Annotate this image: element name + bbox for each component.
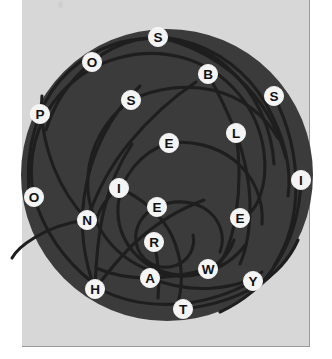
- letter-node[interactable]: O: [24, 187, 43, 206]
- letter-node-disc[interactable]: [24, 187, 43, 206]
- letter-node-disc[interactable]: [121, 90, 140, 109]
- letter-node[interactable]: P: [30, 104, 49, 123]
- letter-node-disc[interactable]: [198, 64, 217, 83]
- letter-node[interactable]: E: [159, 133, 178, 152]
- letter-node-disc[interactable]: [159, 133, 178, 152]
- letter-node-disc[interactable]: [144, 232, 163, 251]
- letter-node[interactable]: O: [82, 52, 101, 71]
- letter-node-disc[interactable]: [230, 208, 249, 227]
- letter-node[interactable]: L: [226, 123, 245, 142]
- letter-node-disc[interactable]: [109, 178, 128, 197]
- letter-node[interactable]: T: [173, 299, 192, 318]
- letter-node-disc[interactable]: [147, 197, 166, 216]
- letter-node-disc[interactable]: [264, 86, 283, 105]
- letter-node-disc[interactable]: [85, 279, 104, 298]
- letter-node[interactable]: Y: [243, 271, 262, 290]
- letter-node-disc[interactable]: [148, 27, 167, 46]
- letter-node-disc[interactable]: [243, 271, 262, 290]
- letter-node[interactable]: N: [77, 210, 96, 229]
- screenshot-root: SOBSSPLEIOIENERWAYHT: [0, 0, 332, 359]
- letter-node[interactable]: E: [147, 197, 166, 216]
- letter-node-disc[interactable]: [198, 259, 217, 278]
- letter-node[interactable]: I: [109, 178, 128, 197]
- letter-node-disc[interactable]: [291, 170, 310, 189]
- letter-node[interactable]: A: [140, 268, 159, 287]
- letter-node[interactable]: S: [264, 86, 283, 105]
- letter-node[interactable]: I: [291, 170, 310, 189]
- letter-node[interactable]: B: [198, 64, 217, 83]
- letter-node-disc[interactable]: [77, 210, 96, 229]
- spiral-letter-puzzle[interactable]: SOBSSPLEIOIENERWAYHT: [0, 0, 332, 359]
- letter-node[interactable]: E: [230, 208, 249, 227]
- letter-node[interactable]: R: [144, 232, 163, 251]
- letter-node-disc[interactable]: [140, 268, 159, 287]
- letter-node[interactable]: S: [121, 90, 140, 109]
- letter-node-disc[interactable]: [226, 123, 245, 142]
- letter-node-disc[interactable]: [30, 104, 49, 123]
- letter-node-disc[interactable]: [173, 299, 192, 318]
- letter-node[interactable]: S: [148, 27, 167, 46]
- letter-node[interactable]: H: [85, 279, 104, 298]
- letter-node-disc[interactable]: [82, 52, 101, 71]
- letter-node[interactable]: W: [198, 259, 217, 278]
